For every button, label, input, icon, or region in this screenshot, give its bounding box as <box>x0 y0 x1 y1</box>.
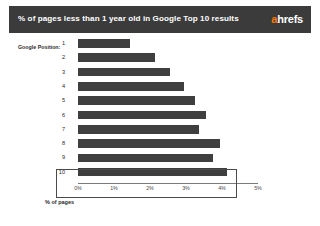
bar <box>78 68 170 77</box>
y-axis-tick-label: 4 <box>39 80 65 93</box>
bar-track <box>78 80 311 93</box>
bar-track <box>78 66 311 79</box>
y-axis-tick-label: 6 <box>39 109 65 122</box>
y-axis-tick-label: 10 <box>39 166 65 179</box>
ahrefs-logo-text: hrefs <box>277 13 303 25</box>
bar <box>78 111 206 120</box>
bar-row: 3 <box>9 66 311 79</box>
bar-row: 10 <box>9 166 311 179</box>
bar-track <box>78 137 311 150</box>
bar <box>78 125 199 134</box>
bar <box>78 139 220 148</box>
bar-row: 1 <box>9 37 311 50</box>
x-axis-ticks: 0%1%2%3%4%5% <box>9 185 311 197</box>
bar-track <box>78 37 311 50</box>
x-axis-tick-label: 4% <box>218 185 226 191</box>
bar-row: 4 <box>9 80 311 93</box>
bar-track <box>78 94 311 107</box>
bar-track <box>78 123 311 136</box>
bar <box>78 154 213 163</box>
chart-header-band: % of pages less than 1 year old in Googl… <box>9 6 311 33</box>
ahrefs-logo: ahrefs <box>271 12 303 27</box>
x-axis-tick-label: 2% <box>146 185 154 191</box>
y-axis-tick-label: 1 <box>39 37 65 50</box>
x-axis-tick-label: 0% <box>74 185 82 191</box>
y-axis-tick-label: 9 <box>39 151 65 164</box>
bar-row: 6 <box>9 109 311 122</box>
bar-track <box>78 151 311 164</box>
bar-row: 8 <box>9 137 311 150</box>
x-axis-tick-label: 5% <box>254 185 262 191</box>
y-axis-tick-label: 7 <box>39 123 65 136</box>
bar <box>78 168 227 177</box>
x-axis-title: % of pages <box>45 199 74 205</box>
bar-row: 9 <box>9 151 311 164</box>
chart-figure: % of pages less than 1 year old in Googl… <box>9 6 311 218</box>
y-axis-tick-label: 8 <box>39 137 65 150</box>
chart-title: % of pages less than 1 year old in Googl… <box>18 14 239 23</box>
bar <box>78 82 184 91</box>
y-axis-tick-label: 5 <box>39 94 65 107</box>
y-axis-tick-label: 2 <box>39 51 65 64</box>
bar <box>78 39 130 48</box>
bar-row: 5 <box>9 94 311 107</box>
plot-area: 12345678910 0%1%2%3%4%5% % of pages <box>9 33 311 218</box>
bar-row: 2 <box>9 51 311 64</box>
bar-row: 7 <box>9 123 311 136</box>
bar-track <box>78 166 311 179</box>
x-axis-tick-label: 3% <box>182 185 190 191</box>
y-axis-tick-label: 3 <box>39 66 65 79</box>
bar-track <box>78 51 311 64</box>
x-axis-tick-label: 1% <box>110 185 118 191</box>
bar <box>78 96 195 105</box>
bar <box>78 53 155 62</box>
x-axis-line <box>78 183 258 184</box>
bar-track <box>78 109 311 122</box>
